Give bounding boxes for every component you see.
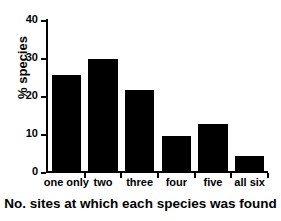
plot-area: 010203040 (46, 19, 268, 173)
y-axis-title: % species (15, 8, 30, 128)
y-axis-tick (41, 96, 46, 98)
y-axis-tick-label: 0 (12, 165, 38, 177)
y-axis-tick (41, 134, 46, 136)
y-axis-tick-label: 20 (12, 89, 38, 101)
bars-group (48, 19, 268, 171)
x-axis-tick-labels: one onlytwothreefourfiveall six (46, 176, 270, 190)
bar (52, 75, 81, 171)
bar (88, 59, 117, 171)
y-axis-tick-label: 10 (12, 127, 38, 139)
y-axis-tick (41, 20, 46, 22)
y-axis-tick (41, 172, 46, 174)
y-axis-tick (41, 58, 46, 60)
x-axis-title: No. sites at which each species was foun… (0, 196, 281, 211)
y-axis-tick-label: 30 (12, 51, 38, 63)
x-axis-tick-label: all six (225, 176, 274, 188)
bar (162, 136, 191, 171)
bar (125, 90, 154, 171)
bar (235, 156, 264, 171)
bar-chart-figure: % species 010203040 one onlytwothreefour… (0, 0, 281, 221)
y-axis-tick-label: 40 (12, 13, 38, 25)
bar (198, 124, 227, 172)
